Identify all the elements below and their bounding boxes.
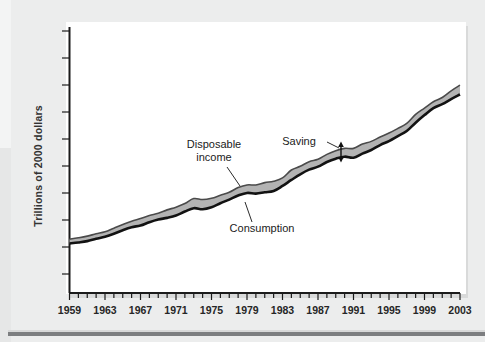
page-bottom-rule: [8, 332, 485, 336]
x-tick-label: 1999: [413, 304, 437, 316]
disposable-income-label-line2: income: [196, 151, 231, 163]
x-axis: 1959196319671971197519791983198719911995…: [58, 293, 472, 316]
x-tick-label: 1959: [58, 304, 82, 316]
x-tick-label: 1967: [129, 304, 153, 316]
x-tick-label: 1971: [164, 304, 188, 316]
x-tick-label: 1991: [342, 304, 366, 316]
x-tick-label: 2003: [448, 304, 472, 316]
y-axis: [62, 27, 70, 293]
x-tick-label: 1995: [377, 304, 401, 316]
x-tick-label: 1983: [271, 304, 295, 316]
disposable-income-label-line1: Disposable: [187, 138, 241, 150]
x-tick-label: 1975: [200, 304, 224, 316]
x-tick-label: 1979: [235, 304, 259, 316]
consumption-annotation: Consumption: [230, 202, 295, 234]
consumption-label: Consumption: [230, 222, 295, 234]
disposable-income-annotation: Disposable income: [187, 138, 241, 186]
disposable-income-line: [70, 85, 461, 239]
x-axis-tick-labels: 1959196319671971197519791983198719911995…: [58, 304, 472, 316]
figure-page: Trillions of 2000 dollars 19591963196719…: [0, 0, 485, 342]
x-tick-label: 1987: [306, 304, 330, 316]
saving-band: [70, 85, 461, 243]
x-tick-label: 1963: [93, 304, 117, 316]
saving-label: Saving: [282, 135, 316, 147]
x-axis-ticks: [70, 293, 461, 300]
chart-svg: 1959196319671971197519791983198719911995…: [0, 0, 485, 342]
y-axis-ticks: [62, 31, 70, 274]
